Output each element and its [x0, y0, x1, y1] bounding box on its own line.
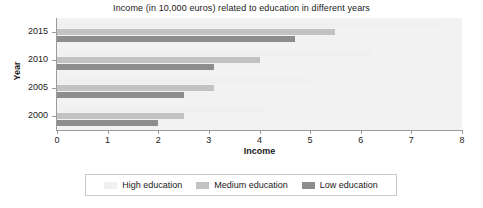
x-axis-tick [462, 130, 463, 134]
y-axis-tick [52, 32, 57, 33]
y-axis-title: Year [12, 41, 22, 101]
bar-2005-medium [57, 85, 214, 91]
bar-2005-low [57, 92, 184, 98]
legend-item[interactable]: High education [104, 180, 182, 190]
x-axis-tick [260, 130, 261, 134]
legend-item[interactable]: Low education [302, 180, 378, 190]
y-axis-tick [52, 116, 57, 117]
chart-title: Income (in 10,000 euros) related to educ… [0, 3, 483, 13]
x-axis-tick [411, 130, 412, 134]
bar-2010-medium [57, 57, 260, 63]
legend-swatch-low-education-icon [302, 182, 315, 189]
x-axis-tick-label: 7 [401, 135, 421, 145]
bar-2000-low [57, 120, 158, 126]
x-axis-tick-label: 5 [300, 135, 320, 145]
x-axis-tick [361, 130, 362, 134]
y-axis-tick-label: 2005 [8, 82, 48, 92]
x-axis-tick [108, 130, 109, 134]
bar-2015-low [57, 36, 295, 42]
legend-swatch-medium-education-icon [196, 182, 209, 189]
bar-2015-high [57, 22, 442, 28]
x-axis-tick-label: 2 [148, 135, 168, 145]
chart-legend: High education Medium education Low educ… [85, 174, 397, 196]
x-axis-tick-label: 1 [98, 135, 118, 145]
x-axis-tick-label: 3 [199, 135, 219, 145]
y-axis-tick-label: 2000 [8, 110, 48, 120]
y-axis-tick [52, 60, 57, 61]
y-axis-tick-label: 2015 [8, 26, 48, 36]
bar-2000-high [57, 106, 265, 112]
x-axis-tick [209, 130, 210, 134]
x-axis-tick [57, 130, 58, 134]
x-axis-tick-label: 8 [452, 135, 472, 145]
x-axis-tick-label: 0 [47, 135, 67, 145]
x-axis-tick [158, 130, 159, 134]
x-axis-tick-label: 6 [351, 135, 371, 145]
plot-panel [57, 18, 462, 130]
bar-2010-high [57, 50, 371, 56]
y-axis-tick-label: 2010 [8, 54, 48, 64]
bar-2000-medium [57, 113, 184, 119]
legend-label: Low education [320, 180, 378, 190]
legend-swatch-high-education-icon [104, 182, 117, 189]
legend-label: Medium education [214, 180, 288, 190]
chart-figure: Income (in 10,000 euros) related to educ… [0, 0, 483, 208]
x-axis-tick-label: 4 [250, 135, 270, 145]
x-axis-title: Income [57, 146, 462, 156]
bar-2010-low [57, 64, 214, 70]
y-axis-tick [52, 88, 57, 89]
y-axis-line [56, 18, 57, 131]
legend-item[interactable]: Medium education [196, 180, 288, 190]
bar-2015-medium [57, 29, 335, 35]
plot-area [57, 18, 462, 130]
bar-2005-high [57, 78, 310, 84]
x-axis-tick [310, 130, 311, 134]
legend-label: High education [122, 180, 182, 190]
